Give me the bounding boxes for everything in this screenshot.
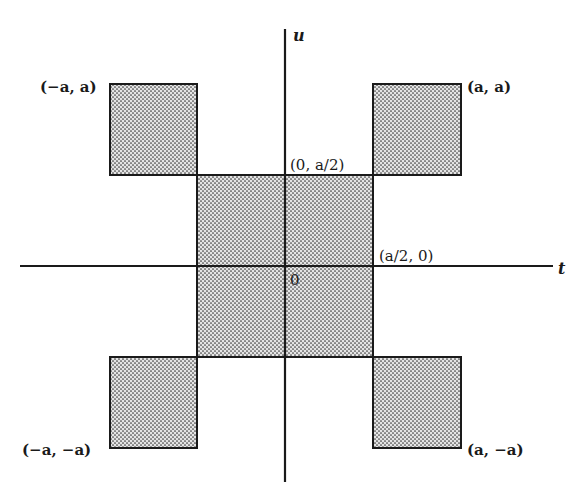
bottom-left-square xyxy=(110,357,197,448)
top-left-square xyxy=(110,84,197,175)
top-right-square xyxy=(373,84,461,175)
bottom-right-square xyxy=(373,357,461,448)
label-bottom-left-corner: (−a, −a) xyxy=(22,441,91,459)
label-top-right-corner: (a, a) xyxy=(467,78,511,96)
label-center-top: (0, a/2) xyxy=(290,156,344,174)
label-top-left-corner: (−a, a) xyxy=(40,78,97,96)
label-center-right: (a/2, 0) xyxy=(379,247,433,265)
diagram-canvas: u t 0 (−a, a) (a, a) (0, a/2) (a/2, 0) (… xyxy=(0,0,579,495)
u-axis-label: u xyxy=(293,26,305,45)
origin-label: 0 xyxy=(290,271,300,289)
t-axis-label: t xyxy=(558,259,566,278)
label-bottom-right-corner: (a, −a) xyxy=(467,441,524,459)
diagram-figure: u t 0 (−a, a) (a, a) (0, a/2) (a/2, 0) (… xyxy=(0,0,579,495)
